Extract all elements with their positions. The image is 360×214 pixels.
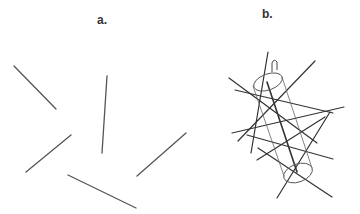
rod-line: [14, 66, 56, 109]
rod-line: [277, 112, 330, 198]
rod-line: [137, 133, 186, 176]
cylinder-right-side: [282, 77, 312, 168]
panel-b-rods: [229, 52, 344, 198]
rod-line: [68, 175, 136, 208]
cylinder-outline: [251, 69, 315, 186]
cylinder-top-ellipse: [251, 69, 285, 94]
rod-line: [102, 76, 107, 153]
cylinder-left-side: [253, 86, 284, 176]
rod-line: [251, 52, 268, 153]
rod-line: [26, 135, 71, 172]
hook-icon: [272, 60, 277, 72]
figure-canvas: [0, 0, 360, 214]
rod-line: [229, 78, 317, 143]
panel-a-rods: [14, 66, 186, 208]
